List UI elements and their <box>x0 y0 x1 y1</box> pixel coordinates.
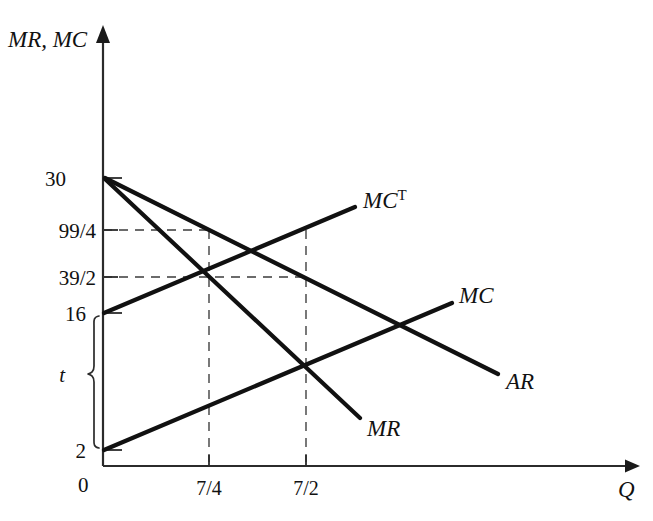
curve-label-mc-t-superscript: T <box>398 187 407 203</box>
curve-label-mc: MC <box>458 283 494 308</box>
economics-diagram-figure: MR, MC Q 0 30 99/4 39/2 16 2 t 7/4 7/2 M… <box>0 0 653 521</box>
x-tick-label-7-2: 7/2 <box>293 477 319 499</box>
y-tick-label-2: 2 <box>76 439 87 463</box>
curve-label-mr: MR <box>366 416 400 441</box>
x-tick-marks <box>209 455 306 466</box>
curve-label-mc-t-base: MC <box>362 188 398 213</box>
curve-label-mc-t: MCT <box>362 187 407 213</box>
origin-label: 0 <box>78 473 89 497</box>
curve-group <box>104 178 498 450</box>
diagram-canvas: MR, MC Q 0 30 99/4 39/2 16 2 t 7/4 7/2 M… <box>0 0 653 521</box>
y-tick-label-99-4: 99/4 <box>59 219 97 243</box>
x-axis-title: Q <box>618 477 635 502</box>
y-axis-title: MR, MC <box>7 27 88 52</box>
curve-label-ar: AR <box>504 369 534 394</box>
x-axis-arrowhead <box>625 460 640 473</box>
y-axis-arrowhead <box>96 25 110 43</box>
y-tick-label-30: 30 <box>45 167 66 191</box>
t-brace-group <box>88 316 99 448</box>
t-brace <box>88 316 99 448</box>
x-tick-label-7-4: 7/4 <box>196 477 222 499</box>
brace-label-t: t <box>59 363 66 387</box>
y-tick-label-16: 16 <box>65 302 86 326</box>
label-group: MR, MC Q 0 30 99/4 39/2 16 2 t 7/4 7/2 M… <box>7 27 635 502</box>
y-tick-label-39-2: 39/2 <box>59 266 96 290</box>
curve-ar <box>105 178 498 374</box>
